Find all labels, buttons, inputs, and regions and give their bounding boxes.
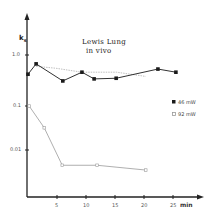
legend-46mw-label: 46 mW [178, 99, 196, 105]
data-point-filled-square-icon [174, 70, 178, 74]
data-point-open-square-icon [96, 164, 99, 167]
x-axis-unit-label: min [180, 201, 193, 208]
x-tick-label-5: 5 [55, 202, 58, 208]
x-tick-label-20: 20 [141, 202, 147, 208]
y-tick-label-0.1: 0.1 [13, 102, 21, 108]
data-point-open-square-icon [144, 169, 147, 172]
data-point-open-square-icon [28, 105, 31, 108]
x-tick-label-10: 10 [83, 202, 89, 208]
data-point-filled-square-icon [61, 79, 65, 83]
chart-plot [0, 0, 212, 220]
data-point-filled-square-icon [80, 70, 84, 74]
data-point-filled-square-icon [114, 76, 118, 80]
data-point-filled-square-icon [156, 67, 160, 71]
x-axis-arrow-icon [197, 195, 204, 200]
legend-92mw-marker-icon [173, 113, 176, 116]
y-axis-label: ks [19, 34, 27, 43]
series-line-92mw [29, 106, 146, 170]
chart-title-line1: Lewis Lung [82, 38, 126, 47]
chart-title-line2: in vivo [82, 47, 126, 56]
chart-title: Lewis Lung in vivo [82, 38, 126, 56]
series-layer [26, 62, 178, 171]
x-tick-label-25: 25 [170, 202, 176, 208]
chart: ks Lewis Lung in vivo 1.0 0.1 0.01 5 10 … [0, 0, 212, 220]
y-axis-arrow-icon [25, 13, 30, 20]
data-point-filled-square-icon [92, 77, 96, 81]
data-point-open-square-icon [61, 164, 64, 167]
data-point-open-square-icon [43, 126, 46, 129]
y-tick-label-0.01: 0.01 [10, 146, 21, 152]
x-tick-label-15: 15 [112, 202, 118, 208]
data-point-filled-square-icon [26, 72, 30, 76]
legend-46mw-marker-icon [172, 100, 176, 104]
legend-92mw-label: 92 mW [178, 111, 196, 117]
y-tick-label-1: 1.0 [12, 51, 20, 57]
data-point-filled-square-icon [34, 62, 38, 66]
